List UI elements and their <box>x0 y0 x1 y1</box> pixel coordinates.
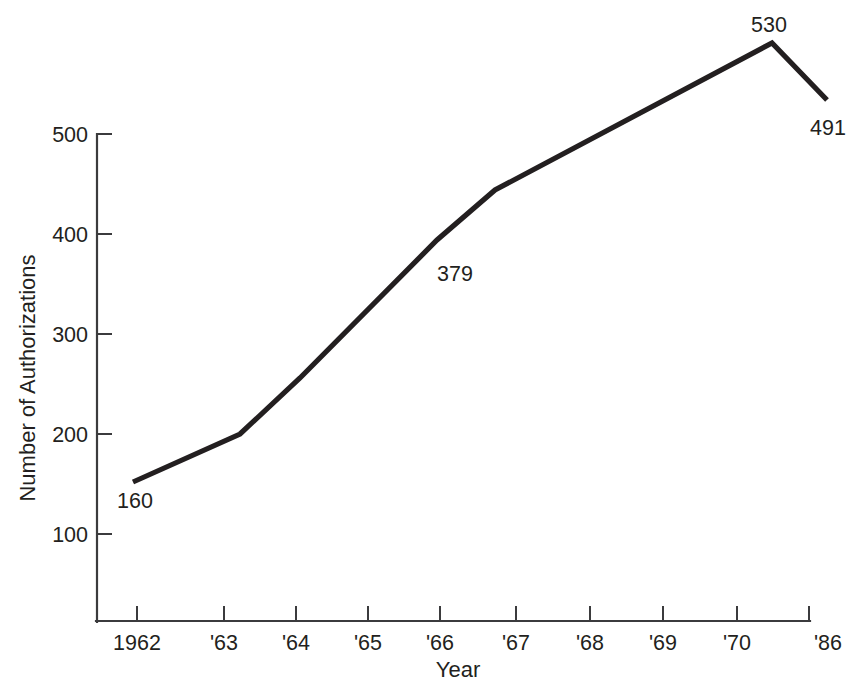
y-tick-label-500: 500 <box>52 123 88 147</box>
data-label-160: 160 <box>117 489 153 513</box>
x-axis-ticks <box>137 606 809 621</box>
y-axis-ticks <box>97 134 112 534</box>
x-tick-label-63: '63 <box>210 631 238 655</box>
x-axis-title: Year <box>436 657 480 682</box>
y-tick-label-400: 400 <box>52 223 88 247</box>
line-chart-figure: 500 400 300 200 100 1962 '63 '64 '65 '66… <box>0 0 861 695</box>
x-tick-label-66: '66 <box>426 631 454 655</box>
x-tick-label-65: '65 <box>354 631 382 655</box>
data-label-379: 379 <box>437 262 473 286</box>
x-tick-label-1962: 1962 <box>113 631 161 655</box>
y-tick-label-100: 100 <box>52 523 88 547</box>
x-axis-tick-labels: 1962 '63 '64 '65 '66 '67 '68 '69 '70 '86 <box>113 631 842 655</box>
x-tick-label-69: '69 <box>649 631 677 655</box>
x-tick-label-64: '64 <box>282 631 310 655</box>
y-axis-tick-labels: 500 400 300 200 100 <box>52 123 88 547</box>
data-label-491: 491 <box>810 116 846 140</box>
y-tick-label-300: 300 <box>52 323 88 347</box>
x-tick-label-67: '67 <box>502 631 530 655</box>
y-tick-label-200: 200 <box>52 423 88 447</box>
data-label-530: 530 <box>751 13 787 37</box>
x-tick-label-68: '68 <box>576 631 604 655</box>
x-tick-label-86: '86 <box>814 631 842 655</box>
authorizations-series-line <box>133 43 827 482</box>
y-axis-title: Number of Authorizations <box>15 254 40 501</box>
chart-canvas: 500 400 300 200 100 1962 '63 '64 '65 '66… <box>0 0 861 695</box>
x-tick-label-70: '70 <box>723 631 751 655</box>
